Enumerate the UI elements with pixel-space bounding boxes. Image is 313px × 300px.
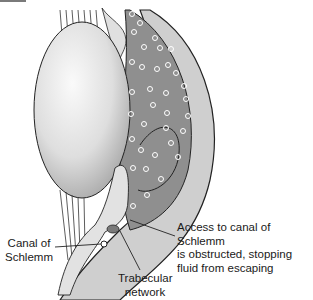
canal-of-schlemm [101,241,107,247]
label-line: Schlemm [5,251,53,265]
label-obstruction-note: Access to canal of Schlemm is obstructed… [177,221,313,275]
label-line: Trabecular [118,272,172,286]
label-line: fluid from escaping [177,262,313,276]
blocked-duct [107,225,119,233]
label-line: Access to canal of Schlemm [177,221,313,248]
label-line: Canal of [5,237,53,251]
label-line: network [118,286,172,300]
label-trabecular-network: Trabecular network [118,272,172,299]
label-canal-of-schlemm: Canal of Schlemm [5,237,53,264]
label-line: is obstructed, stopping [177,248,313,262]
